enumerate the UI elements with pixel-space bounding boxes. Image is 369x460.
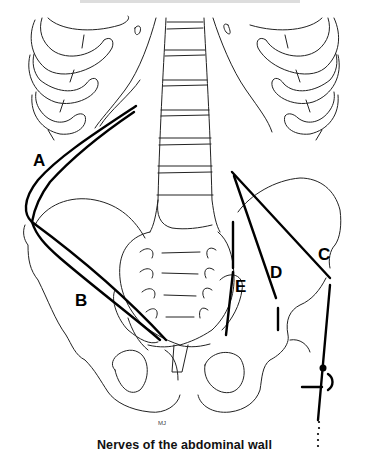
abdominal-wall-diagram: A B C D E MJ (0, 0, 369, 460)
artist-signature: MJ (158, 420, 166, 426)
sacrum (120, 200, 234, 345)
pubic-symphysis (148, 344, 210, 372)
nerve-a (26, 106, 166, 340)
label-e: E (235, 277, 246, 296)
label-b: B (75, 291, 87, 310)
left-hip-bone (24, 199, 180, 413)
label-c: C (318, 245, 330, 264)
left-rib-cage (29, 16, 156, 140)
right-rib-cage (213, 18, 339, 140)
label-a: A (33, 151, 45, 170)
nerve-c-node (320, 365, 327, 372)
lumbar-spine (150, 18, 220, 232)
figure-caption: Nerves of the abdominal wall (0, 438, 369, 452)
label-d: D (270, 263, 282, 282)
